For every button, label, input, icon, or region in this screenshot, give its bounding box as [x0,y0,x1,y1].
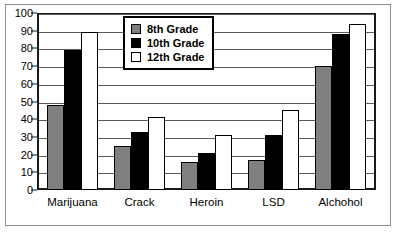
y-axis-tick-label: 30 [21,131,33,142]
legend-item: 12th Grade [131,50,204,64]
x-axis-labels: MarijuanaCrackHeroinLSDAlchohol [39,196,374,214]
x-axis-label: LSD [262,196,284,208]
bar [349,24,366,190]
x-axis-label: Alchohol [318,196,362,208]
y-axis-labels: 0102030405060708090100 [0,13,33,190]
x-axis-label: Heroin [190,196,224,208]
bar [64,50,81,190]
legend-label: 8th Grade [147,23,198,35]
bar-group [47,13,98,190]
y-axis-tick-label: 90 [21,25,33,36]
y-axis-tick-label: 40 [21,114,33,125]
bar-chart-figure: 0102030405060708090100 MarijuanaCrackHer… [0,0,396,233]
bar [315,66,332,190]
legend-swatch [131,38,141,48]
legend-swatch [131,24,141,34]
bar [181,162,198,190]
y-axis-tick-label: 20 [21,149,33,160]
x-axis-label: Marijuana [47,196,98,208]
legend-label: 12th Grade [147,51,204,63]
bar-group [315,13,366,190]
y-axis-tick-label: 10 [21,167,33,178]
bar [215,135,232,190]
x-axis-label: Crack [124,196,154,208]
bar [332,34,349,190]
bar [81,32,98,190]
bar-group [248,13,299,190]
y-axis-tick-label: 60 [21,78,33,89]
y-axis-tick-label: 80 [21,43,33,54]
bar [248,160,265,190]
y-axis-tick-label: 0 [27,185,33,196]
bar [265,135,282,190]
legend: 8th Grade10th Grade12th Grade [123,16,214,70]
y-axis-tick-label: 100 [15,8,33,19]
legend-item: 8th Grade [131,22,204,36]
bar [114,146,131,190]
legend-label: 10th Grade [147,37,204,49]
bar [198,153,215,190]
legend-swatch [131,52,141,62]
y-axis-tick-label: 70 [21,61,33,72]
bar [148,117,165,190]
legend-item: 10th Grade [131,36,204,50]
bar [131,132,148,190]
bar [47,105,64,190]
y-axis-tick-label: 50 [21,96,33,107]
bar [282,110,299,190]
